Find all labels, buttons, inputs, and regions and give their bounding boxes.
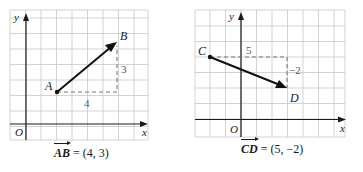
grid-lines bbox=[195, 10, 345, 137]
vector-cd-notation: CD bbox=[241, 142, 258, 157]
y-axis-arrow-icon bbox=[238, 12, 244, 20]
caption-cd: CD = (5, −2) bbox=[241, 142, 303, 157]
vector-cd bbox=[210, 57, 280, 85]
point-d-label: D bbox=[289, 91, 299, 105]
origin-label: O bbox=[230, 123, 238, 135]
y-axis-label: y bbox=[228, 10, 234, 22]
point-c-label: C bbox=[198, 44, 207, 58]
component-dy-label: −2 bbox=[289, 64, 301, 76]
component-dx-label: 5 bbox=[246, 44, 252, 56]
coordinate-grid-right: y x O C D 5 −2 bbox=[0, 0, 363, 172]
caption-cd-value: = (5, −2) bbox=[258, 142, 304, 156]
x-axis-label: x bbox=[339, 122, 345, 134]
point-c-dot bbox=[208, 55, 212, 59]
